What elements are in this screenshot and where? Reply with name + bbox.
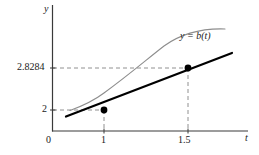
y-tick-label-2p8284: 2.8284 [17,62,45,72]
point-1p5-2p8284 [185,65,192,72]
x-axis-label: t [245,133,248,143]
y-axis-label: y [44,4,48,14]
y-tick-label-2: 2 [42,104,47,114]
secant-line [66,53,232,117]
x-tick-label-1p5: 1.5 [178,135,191,145]
point-1-2 [101,107,108,114]
x-tick-label-0: 0 [46,135,51,145]
graph-figure: y t 2.8284 2 0 1 1.5 y = b(t) [0,0,259,155]
function-curve [70,29,225,111]
data-points [101,65,192,114]
x-tick-label-1: 1 [101,135,106,145]
graph-canvas [0,0,259,155]
curve-equation-label: y = b(t) [180,31,211,41]
